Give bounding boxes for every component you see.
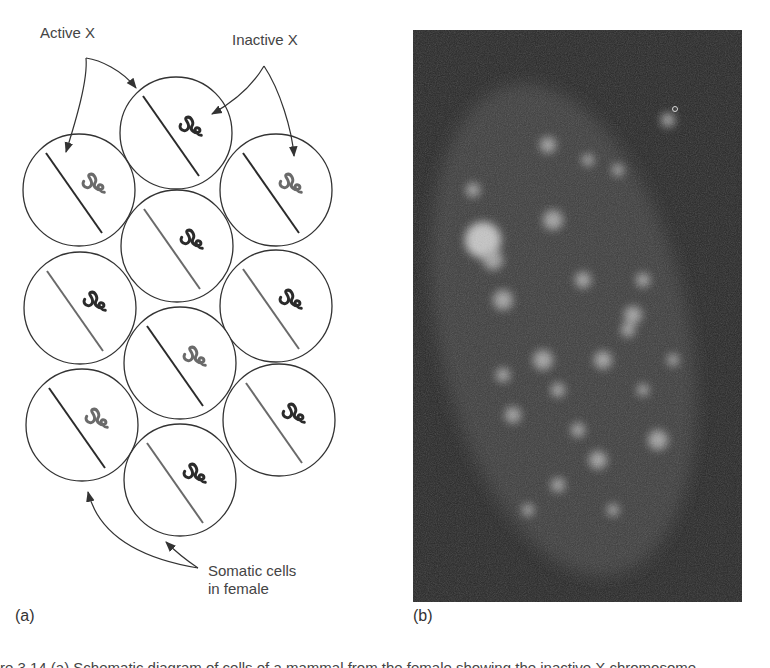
somatic-cell [121,190,233,302]
somatic-cell [120,77,232,189]
active-x-label: Active X [40,24,95,41]
somatic-cells-label-line1: Somatic cells [208,562,296,579]
panel-a-label: (a) [15,607,35,625]
fluorescence-micrograph [413,30,742,602]
panel-b-label: (b) [413,607,433,625]
cell-membrane [121,190,233,302]
cell-membrane [124,424,236,536]
cell-membrane [23,134,135,246]
cell-membrane [223,364,335,476]
cell-membrane [120,77,232,189]
somatic-cell [220,134,332,246]
x-inactivation-schematic [0,0,400,640]
somatic-cell [24,252,136,364]
somatic-cell [124,307,236,419]
cell-group [23,77,335,536]
cell-membrane [26,369,138,481]
somatic-cells-label-line2: in female [208,580,269,597]
somatic-cell [220,250,332,362]
somatic-cell [23,134,135,246]
cell-membrane [24,252,136,364]
inactive-x-label: Inactive X [232,31,298,48]
somatic-cell [26,369,138,481]
somatic-cell [223,364,335,476]
figure-caption: re 3.14 (a) Schematic diagram of cells o… [0,656,770,668]
cell-membrane [220,250,332,362]
somatic-cell [124,424,236,536]
cell-membrane [220,134,332,246]
cell-membrane [124,307,236,419]
